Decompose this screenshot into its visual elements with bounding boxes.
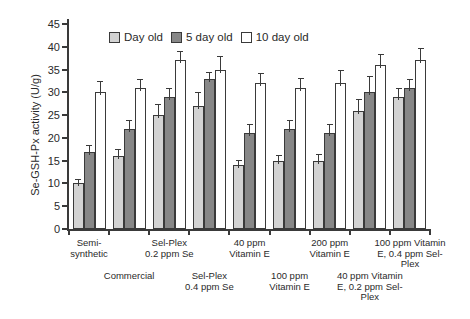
bar [215,70,226,229]
error-bar-whisker [409,79,410,91]
error-bar-whisker [249,124,250,136]
bar [164,97,175,229]
error-bar-cap [396,88,402,89]
y-tick-label: 0 [26,223,60,235]
error-bar-whisker [140,79,141,91]
x-tick [148,231,150,235]
error-bar-cap [166,88,172,89]
error-bar-whisker [369,76,370,95]
error-bar-cap [356,99,362,100]
y-tick-label: 30 [26,86,60,98]
error-bar-cap [236,160,242,161]
bar [193,106,204,229]
error-bar-cap [316,154,322,155]
bar [124,129,135,229]
bar [255,83,266,229]
y-tick-label: 15 [26,155,60,167]
bar [95,92,106,229]
error-bar-whisker [329,124,330,136]
bar [353,111,364,229]
error-bar-whisker [420,48,421,64]
error-bar-cap [217,56,223,57]
y-tick [62,137,67,139]
error-bar-cap [258,73,264,74]
error-bar-cap [298,78,304,79]
bar [84,152,95,229]
bar [404,88,415,229]
bar [153,115,164,229]
y-tick-label: 10 [26,177,60,189]
bar [135,88,146,229]
error-bar-whisker [340,70,341,87]
error-bar-cap [367,76,373,77]
error-bar-whisker [398,88,399,100]
error-bar-cap [407,79,413,80]
error-bar-whisker [289,120,290,132]
y-tick [62,46,67,48]
bar [313,161,324,229]
error-bar-whisker [89,145,90,155]
x-tick [309,231,311,235]
y-tick [62,182,67,184]
bar [284,129,295,229]
error-bar-cap [97,81,103,82]
y-tick-label: 40 [26,41,60,53]
error-bar-whisker [238,160,239,168]
error-bar-cap [126,120,132,121]
error-bar-cap [137,79,143,80]
bar [295,88,306,229]
x-tick [108,231,110,235]
plot-area: 051015202530354045Semi- syntheticCommerc… [0,0,470,319]
bar [73,183,84,229]
error-bar-cap [155,104,161,105]
error-bar-whisker [300,78,301,91]
error-bar-whisker [358,99,359,113]
error-bar-cap [86,145,92,146]
y-tick [62,91,67,93]
error-bar-cap [276,155,282,156]
error-bar-whisker [180,51,181,63]
x-tick [429,231,431,235]
x-axis-line [67,229,431,231]
bar [244,133,255,229]
error-bar-cap [287,120,293,121]
x-tick [228,231,230,235]
error-bar-cap [195,92,201,93]
error-bar-whisker [129,120,130,132]
bar [175,60,186,229]
error-bar-cap [378,54,384,55]
x-tick [68,231,70,235]
y-tick-label: 20 [26,132,60,144]
error-bar-whisker [380,54,381,68]
y-tick-label: 45 [26,18,60,30]
bar [364,92,375,229]
error-bar-cap [177,51,183,52]
bar-chart-figure: Se-GSH-Px activity (U/g) Day old 5 day o… [0,0,470,319]
error-bar-cap [247,124,253,125]
error-bar-cap [418,48,424,49]
bar [335,83,346,229]
bar [273,161,284,229]
y-tick [62,205,67,207]
y-tick-label: 5 [26,200,60,212]
error-bar-cap [75,179,81,180]
error-bar-whisker [118,149,119,159]
y-tick [62,69,67,71]
error-bar-whisker [78,179,79,187]
y-tick-label: 35 [26,64,60,76]
x-category-label: 40 ppm Vitamin E, 0.2 ppm Sel- Plex [315,271,425,303]
x-tick [349,231,351,235]
y-tick [62,23,67,25]
error-bar-whisker [158,104,159,118]
error-bar-whisker [260,73,261,86]
bar [415,60,426,229]
x-category-label: 100 ppm Vitamin E, 0.4 ppm Sel- Plex [355,238,465,270]
error-bar-whisker [318,154,319,164]
error-bar-whisker [169,88,170,100]
error-bar-whisker [278,155,279,163]
error-bar-cap [327,124,333,125]
x-tick [389,231,391,235]
bar [204,79,215,229]
x-tick [269,231,271,235]
error-bar-whisker [220,56,221,73]
